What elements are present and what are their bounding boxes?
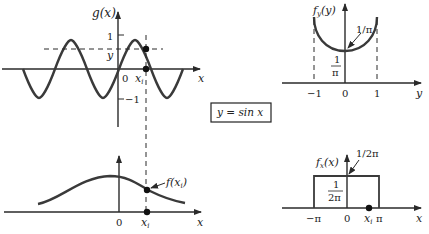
fx-x-axis-label: x — [416, 212, 423, 225]
density-curve — [38, 176, 185, 204]
f-xi-pointer — [151, 183, 165, 188]
fx-axis-label: fx(x) — [315, 156, 339, 170]
panel-fx-of-x: fx(x) 1/2π 1 2π −π 0 xi π x — [282, 148, 423, 226]
fx-top-annotation: 1/2π — [356, 148, 379, 159]
fx-xi-dot — [366, 205, 372, 211]
f-xi-label: f(xi) — [165, 176, 187, 190]
xi-label: xi — [135, 72, 143, 86]
fy-frac-den: π — [332, 67, 339, 78]
fy-tick-one: 1 — [374, 88, 380, 99]
x-axis-label: x — [198, 72, 205, 85]
fy-tick-minus-one: −1 — [307, 88, 322, 99]
fy-min-annotation: 1/π — [356, 24, 373, 35]
fy-min-pointer — [348, 33, 361, 48]
fy-x-axis-label: y — [415, 87, 423, 100]
fx-xi-label: xi — [364, 212, 372, 226]
panel-fy-of-y: fy(y) 1/π 1 π −1 0 1 y — [282, 4, 423, 100]
fx-tick-pi: π — [376, 213, 383, 224]
diagram-canvas: g(x) 1 y 0 xi x −1 f(xi) 0 xi x y = sin … — [0, 0, 429, 234]
fx-top-pointer — [349, 160, 359, 174]
f-origin-label: 0 — [116, 217, 122, 228]
g-axis-label: g(x) — [92, 6, 116, 20]
fx-tick-minus-pi: −π — [306, 213, 321, 224]
fy-frac-num: 1 — [334, 54, 340, 65]
fx-frac-den: 2π — [328, 192, 341, 203]
xi-dot-bottom — [144, 209, 150, 215]
fy-axis-label: fy(y) — [312, 4, 336, 18]
sine-point-dot — [143, 46, 149, 52]
panel-f-of-x: f(xi) 0 xi x — [4, 156, 204, 230]
f-xi-axis-label: xi — [141, 216, 149, 230]
f-x-axis-label: x — [197, 216, 204, 229]
fx-frac-num: 1 — [333, 179, 339, 190]
fx-origin: 0 — [344, 213, 350, 224]
fy-origin: 0 — [342, 88, 348, 99]
y-marker-label: y — [106, 49, 114, 62]
tick-minus-one-label: −1 — [125, 94, 140, 105]
xi-dot-top — [143, 66, 149, 72]
transform-box: y = sin x — [211, 103, 271, 122]
f-xi-dot — [144, 187, 150, 193]
origin-label: 0 — [122, 73, 128, 84]
tick-one-label: 1 — [107, 31, 113, 42]
transform-label: y = sin x — [216, 106, 263, 118]
